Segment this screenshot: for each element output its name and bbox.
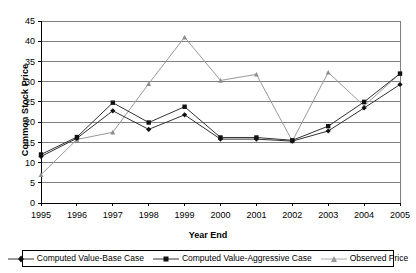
svg-text:1999: 1999 (175, 210, 195, 220)
svg-text:0: 0 (30, 198, 35, 208)
triangle-marker-icon (321, 254, 347, 264)
plot-frame (41, 21, 400, 203)
svg-text:10: 10 (25, 158, 35, 168)
svg-text:15: 15 (25, 138, 35, 148)
svg-text:2005: 2005 (390, 210, 410, 220)
gridlines (41, 21, 400, 203)
legend-item[interactable]: Observed Price (321, 254, 409, 264)
svg-text:30: 30 (25, 77, 35, 87)
legend-item-label: Computed Value-Aggressive Case (182, 254, 312, 263)
legend-item[interactable]: Computed Value-Base Case (8, 254, 144, 264)
svg-text:2000: 2000 (210, 210, 230, 220)
stock-price-line-chart: Common Stock Price Year End 051015202530… (0, 0, 416, 273)
legend-item-label: Computed Value-Base Case (37, 254, 144, 263)
svg-text:5: 5 (30, 178, 35, 188)
svg-text:1998: 1998 (139, 210, 159, 220)
legend-item-label: Observed Price (350, 254, 409, 263)
plot-area: 051015202530354045 199519961997199819992… (0, 0, 416, 273)
diamond-marker-icon (8, 254, 34, 264)
svg-text:1995: 1995 (31, 210, 51, 220)
svg-text:1997: 1997 (103, 210, 123, 220)
chart-legend: Computed Value-Base Case Computed Value-… (22, 250, 394, 267)
svg-text:45: 45 (25, 16, 35, 26)
svg-text:40: 40 (25, 36, 35, 46)
square-marker-icon (153, 254, 179, 264)
svg-text:2004: 2004 (354, 210, 374, 220)
x-axis-ticks: 1995199619971998199920002001200220032004… (31, 203, 410, 220)
y-axis-ticks: 051015202530354045 (25, 16, 41, 208)
svg-text:2003: 2003 (318, 210, 338, 220)
legend-item[interactable]: Computed Value-Aggressive Case (153, 254, 312, 264)
svg-text:25: 25 (25, 97, 35, 107)
svg-text:1996: 1996 (67, 210, 87, 220)
svg-text:2001: 2001 (246, 210, 266, 220)
data-series (38, 35, 402, 177)
svg-text:35: 35 (25, 57, 35, 67)
svg-text:20: 20 (25, 117, 35, 127)
svg-text:2002: 2002 (282, 210, 302, 220)
